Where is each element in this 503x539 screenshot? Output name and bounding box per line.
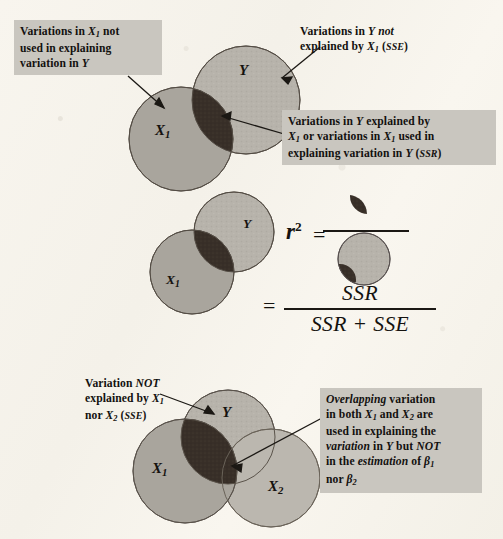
figure-canvas: Y X1 Y X1 Y X1 X2 r2 = = SSR SSR + SSE V…	[0, 0, 503, 539]
bot-label-x2: X2	[268, 478, 283, 496]
bot-circle-x1	[133, 419, 237, 523]
middle-venn-group	[150, 192, 274, 314]
bot-overlap-y-x1	[133, 419, 237, 523]
mid-label-y: Y	[243, 216, 251, 232]
arrow-overlapping	[232, 418, 322, 466]
callout-ssr: Variations in Y explained by X1 or varia…	[282, 110, 496, 165]
r2-numerator-lens	[320, 170, 400, 250]
fraction-numerator-ssr: SSR	[284, 281, 436, 307]
mid-circle-y	[194, 192, 274, 272]
r2-fraction-bar	[323, 230, 409, 232]
bot-label-x1: X1	[152, 460, 167, 478]
r-squared-symbol: r2	[286, 219, 302, 245]
equals-sign-1: =	[313, 222, 325, 248]
fraction-denominator-ssr-sse: SSR + SSE	[284, 312, 436, 337]
callout-sse-not-explained: Variation NOT explained by X1 nor X2 (SS…	[79, 372, 197, 429]
mid-overlap-ssr	[150, 230, 234, 314]
fraction-bar	[284, 308, 436, 310]
top-label-x1: X1	[155, 122, 170, 140]
arrow-x1-unused	[128, 76, 164, 108]
mid-label-x1: X1	[166, 272, 180, 289]
mid-circle-x1	[150, 230, 234, 314]
callout-overlapping-variation: Overlapping variation in both X1 and X2 …	[320, 388, 482, 493]
bot-label-y: Y	[222, 404, 231, 421]
r2-denominator-circle	[338, 233, 390, 285]
callout-x1-unused: Variations in X1 not used in explaining …	[14, 20, 162, 75]
ssr-over-ssr-plus-sse: SSR SSR + SSE	[284, 281, 436, 337]
callout-y-unexplained-sse: Variations in Y not explained by X1 (SSE…	[294, 20, 464, 60]
top-label-y: Y	[239, 62, 248, 79]
arrow-ssr	[222, 116, 291, 136]
top-overlap-ssr	[129, 87, 233, 191]
equals-sign-2: =	[263, 293, 275, 319]
top-circle-x1	[129, 87, 233, 191]
